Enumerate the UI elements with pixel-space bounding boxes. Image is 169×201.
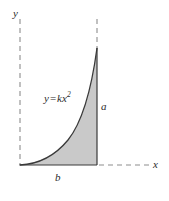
parabola-area-figure: y x a b y=kx2 [0,0,169,201]
height-dimension-label-a: a [101,101,107,112]
equation-operator: = [49,92,57,104]
shaded-area [20,48,97,165]
figure-canvas [0,0,169,201]
x-axis-label: x [153,159,158,170]
width-dimension-label-b: b [55,172,61,183]
equation-exponent: 2 [67,90,71,99]
y-axis-label: y [13,8,18,19]
curve-equation-label: y=kx2 [44,91,71,104]
